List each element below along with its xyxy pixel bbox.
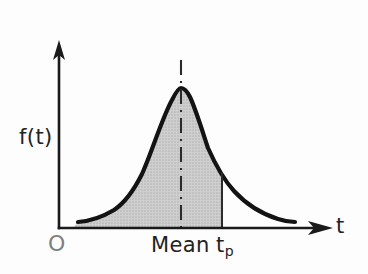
mean-label: Mean bbox=[151, 233, 210, 257]
y-axis-label: f(t) bbox=[19, 125, 53, 149]
tp-label-base: t bbox=[216, 233, 225, 257]
tp-label-subscript: p bbox=[225, 243, 234, 259]
x-axis-label: t bbox=[336, 214, 345, 238]
tp-label: tp bbox=[216, 233, 234, 263]
origin-label: O bbox=[48, 232, 66, 256]
figure-container: f(t) O Mean tp t bbox=[0, 0, 368, 274]
